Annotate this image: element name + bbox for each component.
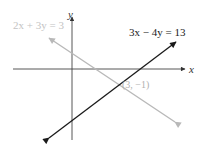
coordinate-graph: x y 2x + 3y = 3 3x − 4y = 13 (3, −1) [0, 0, 205, 149]
equation-label-black: 3x − 4y = 13 [129, 26, 186, 38]
line-2x-3y-3 [49, 38, 175, 122]
intersection-label: (3, −1) [122, 79, 149, 91]
equation-label-gray: 2x + 3y = 3 [13, 19, 64, 31]
x-axis-label: x [188, 63, 194, 75]
y-axis-label: y [67, 8, 73, 20]
line-3x-4y-13 [49, 42, 176, 138]
